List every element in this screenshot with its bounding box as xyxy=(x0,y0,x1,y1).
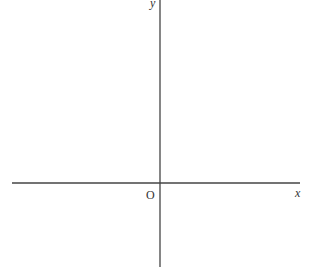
y-axis-label: y xyxy=(149,0,156,10)
x-axis-label: x xyxy=(294,186,301,200)
coordinate-plane: x y O xyxy=(0,0,326,267)
origin-label: O xyxy=(146,188,155,202)
